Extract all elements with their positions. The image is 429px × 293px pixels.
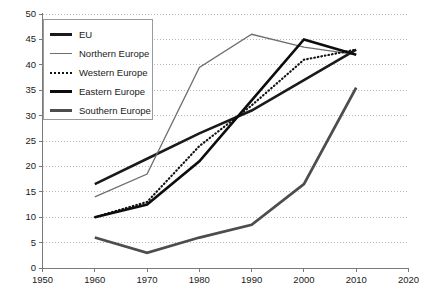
chart-legend: EUNorthern EuropeWestern EuropeEastern E… <box>43 19 153 120</box>
legend-item-eu: EU <box>44 25 152 44</box>
x-tick-label: 1970 <box>127 275 167 285</box>
thick-gray-line-icon <box>50 106 72 116</box>
x-tick-label: 2020 <box>389 275 429 285</box>
thin-gray-line-icon <box>50 49 72 59</box>
thick-black-line-icon <box>50 87 72 97</box>
dotted-black-line-icon <box>50 68 72 78</box>
y-tick-label: 45 <box>12 34 36 44</box>
legend-item-southern-europe: Southern Europe <box>44 101 152 120</box>
y-tick-label: 15 <box>12 187 36 197</box>
x-tick-label: 1950 <box>23 275 63 285</box>
x-axis-ticks <box>43 268 409 272</box>
legend-item-label: Western Europe <box>79 68 147 78</box>
y-tick-label: 5 <box>12 238 36 248</box>
y-tick-label: 40 <box>12 60 36 70</box>
y-tick-label: 25 <box>12 136 36 146</box>
thick-black-line-icon <box>50 30 72 40</box>
line-chart: 05101520253035404550 1950196019701980199… <box>0 0 429 293</box>
legend-item-western-europe: Western Europe <box>44 63 152 82</box>
legend-item-eastern-europe: Eastern Europe <box>44 82 152 101</box>
y-tick-label: 30 <box>12 111 36 121</box>
y-tick-label: 35 <box>12 85 36 95</box>
x-tick-label: 2000 <box>284 275 324 285</box>
x-tick-label: 2010 <box>336 275 376 285</box>
x-tick-label: 1980 <box>179 275 219 285</box>
y-tick-label: 0 <box>12 263 36 273</box>
y-axis-ticks <box>39 14 43 268</box>
legend-item-label: Southern Europe <box>79 106 151 116</box>
y-tick-label: 20 <box>12 161 36 171</box>
y-tick-label: 50 <box>12 9 36 19</box>
legend-item-label: Eastern Europe <box>79 87 145 97</box>
x-tick-label: 1990 <box>232 275 272 285</box>
legend-item-northern-europe: Northern Europe <box>44 44 152 63</box>
y-tick-label: 10 <box>12 212 36 222</box>
legend-item-label: Northern Europe <box>79 49 149 59</box>
x-tick-label: 1960 <box>75 275 115 285</box>
legend-item-label: EU <box>79 30 92 40</box>
